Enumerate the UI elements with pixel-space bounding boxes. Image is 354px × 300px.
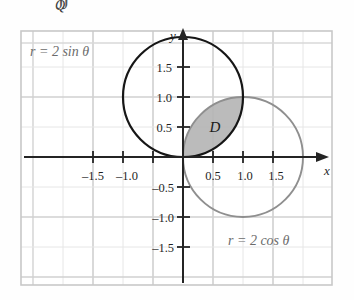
x-axis-name-label: x: [323, 163, 330, 178]
y-tick-label-1.5: 1.5: [156, 61, 172, 75]
sine-circle-equation-label: r = 2 sin θ: [30, 44, 89, 59]
y-axis-name-label: y: [168, 28, 176, 43]
y-tick-label-neg0.5: –0.5: [151, 181, 174, 195]
x-tick-label-1.5: 1.5: [268, 169, 284, 183]
x-tick-label-neg1.0: –1.0: [115, 169, 138, 183]
x-tick-label-1.0: 1.0: [237, 169, 253, 183]
cosine-circle-equation-label: r = 2 cos θ: [228, 233, 290, 248]
region-D-label: D: [209, 119, 221, 135]
polar-circles-plot: 1.5 1.0 0.5 –0.5 –1.0 –1.5 –1.5 –1.0 0.5…: [0, 0, 354, 300]
x-tick-label-0.5: 0.5: [205, 169, 221, 183]
y-tick-label-0.5: 0.5: [156, 121, 172, 135]
y-tick-label-1.0: 1.0: [156, 91, 172, 105]
y-tick-label-neg1.5: –1.5: [151, 241, 174, 255]
y-tick-label-neg1.0: –1.0: [151, 211, 174, 225]
x-tick-label-neg1.5: –1.5: [81, 169, 104, 183]
figure-root: ∫∫ Q: [0, 0, 354, 300]
